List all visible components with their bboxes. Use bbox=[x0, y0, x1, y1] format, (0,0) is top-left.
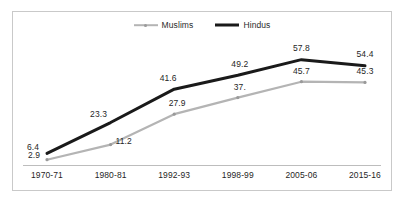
x-axis-tick-labels: 1970-711980-811992-931998-992005-062015-… bbox=[13, 170, 391, 190]
series-line-muslims[interactable] bbox=[45, 80, 366, 161]
x-tick-label: 1998-99 bbox=[222, 170, 254, 180]
data-label-hindus: 41.6 bbox=[160, 73, 177, 83]
plot-area: 6.423.341.649.257.854.42.911.227.937.45.… bbox=[13, 12, 391, 190]
data-label-hindus: 57.8 bbox=[293, 43, 310, 53]
x-tick-label: 1992-93 bbox=[158, 170, 190, 180]
x-tick-label: 1970-71 bbox=[31, 170, 63, 180]
data-label-hindus: 54.4 bbox=[357, 49, 374, 59]
data-label-muslims: 45.3 bbox=[357, 66, 374, 76]
data-label-muslims: 27.9 bbox=[169, 98, 186, 108]
data-label-hindus: 23.3 bbox=[90, 109, 107, 119]
x-tick-label: 2005-06 bbox=[285, 170, 317, 180]
data-label-muslims: 45.7 bbox=[293, 66, 310, 76]
x-axis-line bbox=[23, 165, 381, 166]
x-tick-label: 2015-16 bbox=[349, 170, 381, 180]
x-tick-label: 1980-81 bbox=[95, 170, 127, 180]
data-label-muslims: 2.9 bbox=[28, 150, 40, 160]
chart-frame: Muslims Hindus 6.423.341.649.257.854.42.… bbox=[12, 11, 392, 191]
data-label-muslims: 37. bbox=[234, 82, 246, 92]
data-label-hindus: 49.2 bbox=[231, 59, 248, 69]
data-label-muslims: 11.2 bbox=[115, 136, 131, 146]
